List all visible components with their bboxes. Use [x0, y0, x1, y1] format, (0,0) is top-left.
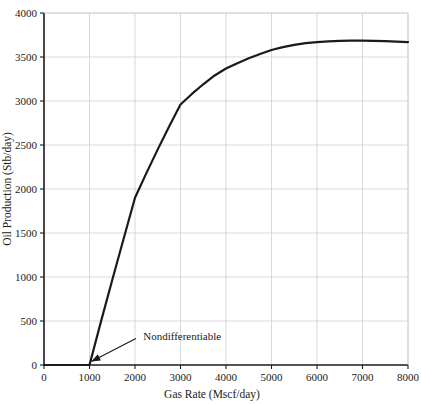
plot-background [0, 0, 421, 404]
x-tick-label: 0 [41, 371, 47, 383]
x-tick-label: 7000 [352, 371, 375, 383]
chart-canvas: 010002000300040005000600070008000 050010… [0, 0, 421, 404]
y-tick-label: 4000 [15, 7, 38, 19]
chart-figure: 010002000300040005000600070008000 050010… [0, 0, 421, 404]
y-tick-label: 3000 [15, 95, 38, 107]
y-tick-label: 2500 [15, 139, 38, 151]
annotation-label: Nondifferentiable [143, 330, 221, 342]
y-tick-label: 2000 [15, 183, 38, 195]
x-tick-label: 1000 [79, 371, 102, 383]
x-tick-label: 5000 [261, 371, 284, 383]
y-tick-label: 3500 [15, 51, 38, 63]
y-tick-label: 1000 [15, 271, 38, 283]
x-tick-label: 4000 [215, 371, 238, 383]
y-axis-title: Oil Production (Stb/day) [1, 132, 14, 246]
y-tick-label: 0 [32, 359, 38, 371]
x-tick-label: 2000 [124, 371, 147, 383]
x-tick-label: 3000 [170, 371, 193, 383]
x-tick-label: 6000 [306, 371, 329, 383]
y-tick-label: 500 [21, 315, 38, 327]
x-tick-label: 8000 [397, 371, 420, 383]
y-tick-label: 1500 [15, 227, 38, 239]
x-axis-title: Gas Rate (Mscf/day) [164, 388, 260, 401]
x-tick-labels: 010002000300040005000600070008000 [41, 371, 419, 383]
